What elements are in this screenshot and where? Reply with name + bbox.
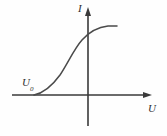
stopping-voltage-subscript: 0 (30, 85, 34, 93)
figure-canvas (0, 0, 167, 136)
stopping-voltage-label: U0 (22, 77, 33, 91)
right-arrow-icon (143, 92, 152, 98)
photoelectric-iv-figure: I U U0 (0, 0, 167, 136)
up-arrow-icon (85, 7, 91, 16)
stopping-voltage-base: U (22, 76, 30, 88)
voltage-axis-label: U (148, 103, 156, 114)
current-axis-label: I (78, 3, 82, 14)
iv-characteristic-curve (34, 26, 117, 95)
